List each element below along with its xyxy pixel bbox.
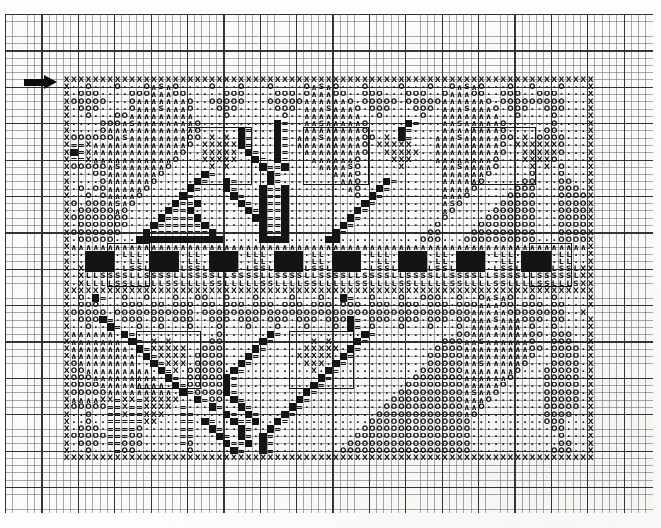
circle-symbol: O	[187, 323, 193, 330]
circle-symbol: O	[522, 360, 528, 367]
caret-symbol: ∧	[136, 185, 143, 192]
dot-symbol: ·	[283, 171, 287, 178]
stitch-cell-circle-symbol: O	[92, 236, 99, 243]
circle-symbol: O	[202, 360, 208, 367]
circle-symbol: O	[427, 425, 433, 432]
stitch-cell-dot-symbol: ·	[252, 134, 259, 141]
dot-symbol: ·	[429, 141, 433, 148]
dot-symbol: ·	[290, 389, 294, 396]
dot-symbol: ·	[552, 83, 556, 90]
stitch-cell-cross-symbol: X	[121, 454, 128, 461]
cross-symbol: X	[588, 243, 594, 250]
caret-symbol: ∧	[464, 112, 471, 119]
dot-symbol: ·	[298, 433, 302, 440]
stitch-cell-circle-symbol: O	[471, 411, 478, 418]
stitch-cell-caret-symbol: ∧	[172, 141, 179, 148]
circle-symbol: O	[347, 309, 353, 316]
dot-symbol: ·	[429, 149, 433, 156]
dot-symbol: ·	[349, 236, 353, 243]
stitch-cell-s-symbol: S	[158, 272, 165, 279]
dot-symbol: ·	[545, 338, 549, 345]
caret-symbol: ∧	[78, 360, 85, 367]
cross-symbol: X	[64, 156, 70, 163]
stitch-cell-equals-symbol: =	[179, 229, 186, 236]
equals-symbol: =	[172, 214, 179, 221]
stitch-cell-l-symbol: L	[441, 258, 448, 265]
stitch-cell-equals-symbol: =	[267, 338, 274, 345]
circle-symbol: O	[92, 382, 98, 389]
circle-symbol: O	[209, 353, 215, 360]
stitch-cell-cross-symbol: X	[347, 76, 354, 83]
stitch-cell-circle-symbol: O	[354, 440, 361, 447]
dot-symbol: ·	[545, 323, 549, 330]
stitch-cell-dot-symbol: ·	[471, 294, 478, 301]
stitch-cell-circle-symbol: O	[412, 418, 419, 425]
dot-symbol: ·	[356, 353, 360, 360]
stitch-cell-caret-symbol: ∧	[478, 345, 485, 352]
caret-symbol: ∧	[114, 149, 121, 156]
stitch-cell-dot-symbol: ·	[201, 98, 208, 105]
dot-symbol: ·	[545, 120, 549, 127]
circle-symbol: O	[551, 105, 557, 112]
stitch-cell-circle-symbol: O	[456, 360, 463, 367]
stitch-cell-equals-symbol: =	[267, 222, 274, 229]
stitch-cell-equals-symbol: =	[267, 447, 274, 454]
stitch-cell-dot-symbol: ·	[449, 316, 456, 323]
cross-symbol: X	[107, 454, 113, 461]
dot-symbol: ·	[429, 185, 433, 192]
dot-symbol: ·	[210, 222, 214, 229]
caret-symbol: ∧	[311, 105, 318, 112]
dot-symbol: ·	[370, 120, 374, 127]
stitch-cell-dot-symbol: ·	[543, 447, 550, 454]
s-symbol: S	[260, 280, 265, 287]
dot-symbol: ·	[203, 185, 207, 192]
dot-symbol: ·	[407, 105, 411, 112]
stitch-cell-cross-symbol: X	[63, 382, 70, 389]
stitch-cell-circle-symbol: O	[434, 382, 441, 389]
dot-symbol: ·	[298, 120, 302, 127]
stitch-cell-dot-symbol: ·	[325, 425, 332, 432]
stitch-cell-circle-symbol: O	[143, 185, 150, 192]
stitch-cell-dot-symbol: ·	[536, 163, 543, 170]
stitch-cell-l-symbol: L	[303, 272, 310, 279]
stitch-cell-circle-symbol: O	[274, 323, 281, 330]
dot-symbol: ·	[523, 83, 527, 90]
circle-symbol: O	[471, 229, 477, 236]
circle-symbol: O	[427, 382, 433, 389]
stitch-cell-caret-symbol: ∧	[150, 98, 157, 105]
stitch-cell-l-symbol: L	[427, 265, 434, 272]
dot-symbol: ·	[552, 178, 556, 185]
stitch-cell-cross-symbol: X	[252, 76, 259, 83]
stitch-cell-cross-symbol: X	[238, 287, 245, 294]
dot-symbol: ·	[276, 112, 280, 119]
stitch-cell-dot-symbol: ·	[536, 185, 543, 192]
circle-symbol: O	[92, 200, 98, 207]
stitch-cell-dot-symbol: ·	[572, 418, 579, 425]
stitch-cell-circle-symbol: O	[478, 294, 485, 301]
equals-symbol: =	[274, 207, 281, 214]
dot-symbol: ·	[290, 200, 294, 207]
circle-symbol: O	[78, 425, 84, 432]
stitch-cell-caret-symbol: ∧	[150, 134, 157, 141]
stitch-cell-l-symbol: L	[259, 258, 266, 265]
stitch-cell-dot-symbol: ·	[318, 185, 325, 192]
stitch-cell-circle-symbol: O	[209, 360, 216, 367]
dot-symbol: ·	[363, 396, 367, 403]
stitch-cell-filled-block-symbol	[107, 323, 114, 330]
dot-symbol: ·	[298, 112, 302, 119]
circle-symbol: O	[507, 91, 513, 98]
dot-symbol: ·	[247, 396, 251, 403]
circle-symbol: O	[442, 403, 448, 410]
stitch-cell-circle-symbol: O	[449, 440, 456, 447]
stitch-cell-dot-symbol: ·	[390, 382, 397, 389]
stitch-cell-dot-symbol: ·	[296, 112, 303, 119]
cross-symbol: X	[588, 178, 594, 185]
stitch-cell-circle-symbol: O	[85, 105, 92, 112]
stitch-cell-s-symbol: S	[252, 265, 259, 272]
stitch-cell-circle-symbol: O	[558, 302, 565, 309]
stitch-cell-cross-symbol: X	[587, 331, 594, 338]
stitch-cell-filled-block-symbol	[281, 200, 288, 207]
stitch-cell-l-symbol: L	[572, 265, 579, 272]
stitch-cell-cross-symbol: X	[529, 76, 536, 83]
stitch-cell-cross-symbol: X	[587, 98, 594, 105]
